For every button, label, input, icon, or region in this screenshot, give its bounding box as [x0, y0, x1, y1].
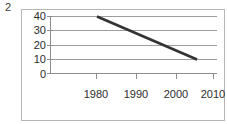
x-axis — [50, 73, 217, 79]
gridlines — [50, 17, 217, 60]
chart-frame: 40 30 20 10 0 1980 1990 2000 2010 — [21, 9, 225, 121]
item-number-label: 2 — [5, 1, 11, 13]
plot-area — [22, 10, 226, 122]
y-axis — [47, 16, 53, 74]
series-trend — [97, 17, 197, 60]
screenshot-root: 2 40 30 20 10 0 1980 1990 2000 2010 — [0, 0, 227, 124]
